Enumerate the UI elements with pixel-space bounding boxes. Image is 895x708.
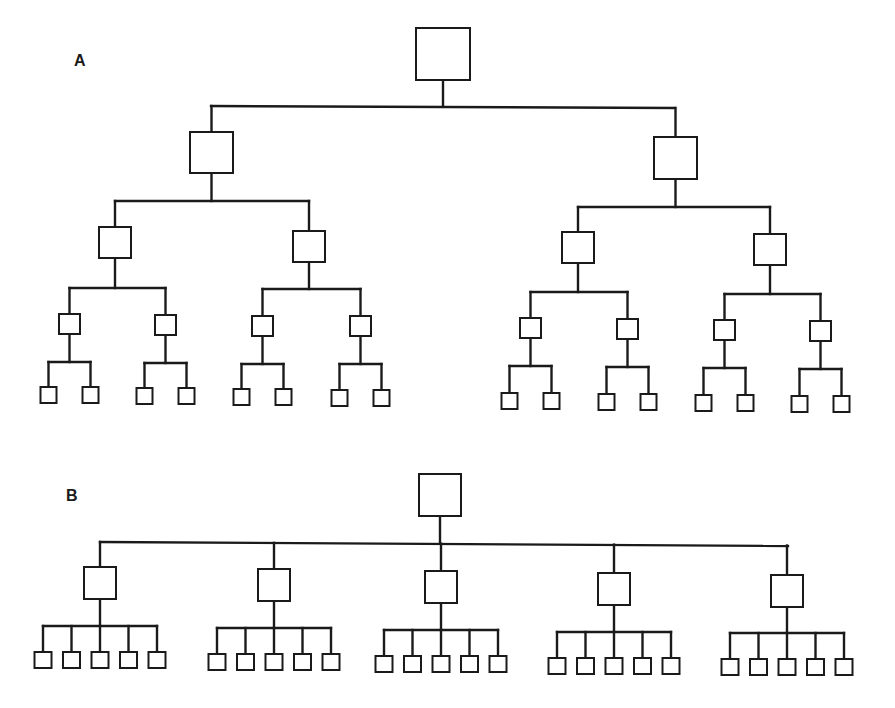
- level3-node: [562, 232, 594, 263]
- level3-node: [99, 227, 131, 258]
- leaf-node: [63, 652, 80, 668]
- panel-a-edges: [49, 80, 842, 396]
- manager-node: [84, 567, 116, 599]
- leaf-node: [41, 387, 57, 403]
- leaf-node: [750, 659, 767, 675]
- leaf-node: [779, 659, 796, 675]
- level2-node: [654, 137, 697, 179]
- leaf-node: [461, 656, 478, 672]
- level4-node: [714, 320, 735, 340]
- leaf-node: [35, 652, 52, 668]
- leaf-node: [209, 654, 226, 670]
- leaf-node: [120, 652, 137, 668]
- leaf-node: [641, 394, 657, 410]
- leaf-node: [502, 393, 518, 409]
- leaf-node: [294, 654, 311, 670]
- level4-node: [810, 321, 831, 341]
- leaf-node: [792, 396, 808, 412]
- panel-a-nodes: [41, 28, 850, 412]
- panel-a: A: [41, 28, 850, 412]
- leaf-node: [634, 658, 651, 674]
- level4-node: [617, 319, 638, 339]
- panel-a-label: A: [74, 52, 86, 69]
- leaf-node: [137, 388, 153, 404]
- leaf-node: [834, 396, 850, 412]
- leaf-node: [149, 652, 166, 668]
- manager-node: [425, 571, 457, 603]
- leaf-node: [266, 654, 283, 670]
- leaf-node: [92, 652, 109, 668]
- leaf-node: [663, 658, 680, 674]
- root-node: [419, 474, 461, 516]
- panel-b: B: [35, 474, 853, 675]
- level2-node: [190, 132, 233, 173]
- leaf-node: [374, 390, 390, 406]
- leaf-node: [836, 659, 853, 675]
- leaf-node: [433, 656, 450, 672]
- leaf-node: [722, 659, 739, 675]
- leaf-node: [577, 658, 594, 674]
- org-chart-figure: A B: [0, 0, 895, 708]
- leaf-node: [606, 658, 623, 674]
- connector-line: [100, 542, 788, 546]
- panel-b-label: B: [66, 487, 78, 504]
- level4-node: [252, 316, 273, 336]
- leaf-node: [549, 658, 566, 674]
- leaf-node: [490, 656, 507, 672]
- leaf-node: [234, 389, 250, 405]
- leaf-node: [738, 395, 754, 411]
- manager-node: [771, 575, 803, 607]
- leaf-node: [179, 388, 195, 404]
- leaf-node: [404, 656, 421, 672]
- leaf-node: [696, 395, 712, 411]
- leaf-node: [544, 393, 560, 409]
- root-node: [416, 28, 470, 80]
- leaf-node: [807, 659, 824, 675]
- level4-node: [520, 318, 541, 338]
- leaf-node: [376, 656, 393, 672]
- manager-node: [598, 573, 630, 605]
- level3-node: [293, 231, 325, 262]
- leaf-node: [599, 394, 615, 410]
- connector-line: [211, 106, 675, 108]
- level3-node: [754, 234, 786, 265]
- level4-node: [155, 315, 176, 335]
- level4-node: [59, 314, 80, 334]
- level4-node: [350, 316, 371, 336]
- leaf-node: [83, 387, 99, 403]
- leaf-node: [276, 389, 292, 405]
- manager-node: [258, 569, 290, 601]
- leaf-node: [323, 654, 340, 670]
- leaf-node: [332, 390, 348, 406]
- leaf-node: [237, 654, 254, 670]
